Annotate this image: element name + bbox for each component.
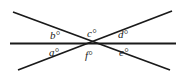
angle-label-f: f° xyxy=(85,50,92,61)
angle-label-c: c° xyxy=(87,28,96,39)
angle-diagram-figure: b° c° d° a° f° e° xyxy=(0,0,184,78)
angle-label-b: b° xyxy=(50,30,60,41)
angle-label-e: e° xyxy=(119,47,128,58)
angle-label-d: d° xyxy=(118,29,128,40)
angle-label-a: a° xyxy=(49,47,59,58)
ascending-diagonal-line xyxy=(18,11,172,70)
lines-canvas xyxy=(0,0,184,78)
